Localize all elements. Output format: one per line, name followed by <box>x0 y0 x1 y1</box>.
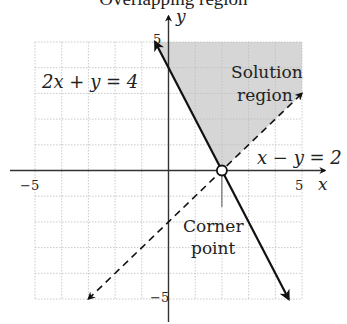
x-tick-label: 5 <box>295 178 303 193</box>
y-axis-label: y <box>175 6 186 26</box>
corner-point-label-line1: Corner <box>183 216 244 236</box>
equation-label-solid-line: 2x + y = 4 <box>41 71 138 92</box>
corner-point-marker <box>217 166 227 176</box>
y-tick-label: −5 <box>150 290 169 305</box>
x-tick-label: −5 <box>20 178 39 193</box>
y-tick-label: 5 <box>153 32 161 47</box>
solution-region-label-line2: region <box>237 85 293 105</box>
solution-region-label-line1: Solution <box>231 62 303 82</box>
equation-label-dashed-line: x − y = 2 <box>257 147 342 168</box>
corner-point-label-line2: point <box>191 238 236 258</box>
inequality-graph: xy−555−5CornerpointSolutionregion2x + y … <box>0 0 347 324</box>
x-axis-label: x <box>318 174 328 194</box>
